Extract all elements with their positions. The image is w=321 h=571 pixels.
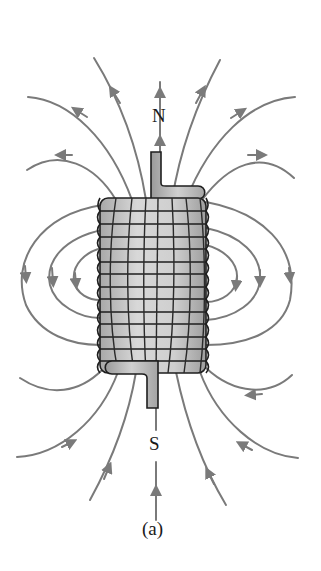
field-line-bottom-4 xyxy=(176,372,226,505)
solenoid-diagram xyxy=(0,0,321,571)
field-line-right-mid xyxy=(206,228,260,320)
field-line-right-outer xyxy=(206,202,292,345)
field-line-bottom-left-loop xyxy=(20,370,102,390)
south-pole-label: S xyxy=(149,433,160,455)
field-line-top-1 xyxy=(94,58,146,200)
field-line-right-inner xyxy=(206,245,237,302)
field-line-bottom-2 xyxy=(200,372,298,458)
field-line-top-5 xyxy=(27,160,116,200)
north-pole-label: N xyxy=(152,105,166,127)
field-line-top-6 xyxy=(202,163,294,200)
figure-caption: (a) xyxy=(142,518,163,540)
field-line-bottom-right-loop xyxy=(206,368,292,390)
field-line-bottom-3 xyxy=(90,372,136,500)
coil xyxy=(98,198,209,373)
field-line-left-outer xyxy=(22,205,102,345)
